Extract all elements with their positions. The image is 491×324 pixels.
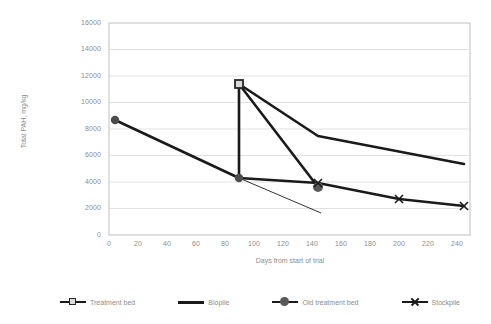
legend-item-treatment-bed[interactable]: Treatment bed [60,296,135,308]
series-biopile [239,84,464,164]
legend-label-biopile: Biopile [208,299,229,306]
x-marker-icon [402,296,428,308]
marker-old-treatment-bed-d4 [111,116,119,124]
legend-item-biopile[interactable]: Biopile [178,296,229,308]
marker-old-treatment-bed-d90 [235,174,243,182]
line-marker-icon [178,296,204,308]
legend-label-treatment-bed: Treatment bed [90,299,135,306]
circle-marker-icon [272,296,298,308]
marker-treatment-bed-d90 [235,80,243,88]
chart-container: 16000 14000 12000 10000 8000 6000 4000 2… [0,0,491,324]
plot-area [0,0,491,324]
legend-label-old-treatment-bed: Old treatment bed [302,299,358,306]
square-marker-icon [60,296,86,308]
chart-legend: Treatment bed Biopile Old treatment bed … [60,291,460,313]
gridlines [109,50,470,209]
legend-item-old-treatment-bed[interactable]: Old treatment bed [272,296,358,308]
legend-label-stockpile: Stockpile [432,299,460,306]
series-treatment-to-oldbed [239,84,318,187]
legend-item-stockpile[interactable]: Stockpile [402,296,460,308]
